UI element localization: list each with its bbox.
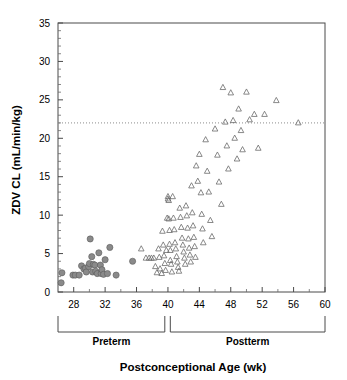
data-point-triangle: [247, 117, 253, 122]
group-bracket-label: Postterm: [226, 336, 269, 347]
x-tick-label: 44: [194, 299, 206, 310]
data-point-triangle: [189, 183, 195, 188]
data-point-circle: [76, 272, 82, 278]
data-point-triangle: [244, 89, 250, 94]
data-point-triangle: [200, 226, 206, 231]
x-tick-label: 32: [100, 299, 112, 310]
data-point-triangle: [216, 179, 222, 184]
data-point-triangle: [138, 246, 144, 251]
data-point-triangle: [224, 143, 230, 148]
series-preterm-points: [58, 236, 136, 286]
y-tick-label: 15: [39, 171, 51, 182]
data-point-triangle: [274, 97, 280, 102]
data-point-triangle: [240, 147, 246, 152]
data-point-triangle: [234, 156, 240, 161]
data-point-triangle: [162, 260, 168, 265]
data-point-circle: [59, 270, 65, 276]
x-tick-label: 36: [131, 299, 143, 310]
data-point-triangle: [226, 166, 232, 171]
data-point-triangle: [171, 215, 177, 220]
x-tick-label: 56: [288, 299, 300, 310]
x-axis-tick-labels: 283236404448525660: [68, 299, 331, 310]
data-point-circle: [104, 270, 110, 276]
data-point-triangle: [167, 241, 173, 246]
data-point-triangle: [197, 151, 203, 156]
x-axis-title: Postconceptional Age (wk): [120, 361, 267, 373]
data-point-triangle: [157, 254, 163, 259]
y-tick-label: 30: [39, 56, 51, 67]
data-point-triangle: [195, 178, 201, 183]
data-point-triangle: [262, 111, 268, 116]
data-point-triangle: [189, 210, 195, 215]
x-tick-label: 28: [68, 299, 80, 310]
chart-figure: 283236404448525660 05101520253035 Preter…: [0, 0, 347, 380]
data-point-triangle: [232, 135, 238, 140]
data-point-triangle: [206, 189, 212, 194]
data-point-triangle: [190, 223, 196, 228]
data-point-triangle: [192, 243, 198, 248]
x-tick-label: 60: [319, 299, 331, 310]
data-point-triangle: [252, 111, 258, 116]
data-point-circle: [107, 244, 113, 250]
data-point-triangle: [175, 259, 181, 264]
group-bracket-label: Preterm: [92, 336, 130, 347]
data-point-triangle: [154, 270, 160, 275]
data-point-triangle: [163, 267, 169, 272]
data-point-circle: [130, 258, 136, 264]
data-point-triangle: [193, 254, 199, 259]
data-point-triangle: [170, 193, 176, 198]
data-point-triangle: [222, 119, 228, 124]
data-point-triangle: [193, 163, 199, 168]
data-point-triangle: [200, 240, 206, 245]
data-point-triangle: [175, 264, 181, 269]
data-point-triangle: [238, 127, 244, 132]
group-bracket: [170, 316, 325, 332]
data-point-triangle: [208, 217, 214, 222]
data-point-triangle: [199, 211, 205, 216]
data-point-triangle: [296, 120, 302, 125]
y-tick-label: 35: [39, 18, 51, 29]
data-point-triangle: [179, 235, 185, 240]
data-point-triangle: [153, 263, 159, 268]
data-point-triangle: [212, 126, 218, 131]
data-point-circle: [58, 280, 64, 286]
data-point-triangle: [228, 90, 234, 95]
data-point-triangle: [220, 84, 226, 89]
group-bracket: [58, 316, 165, 332]
data-point-triangle: [186, 236, 192, 241]
y-axis-title: ZDV CL (mL/min/kg): [10, 105, 22, 215]
data-point-circle: [87, 236, 93, 242]
data-point-triangle: [173, 246, 179, 251]
group-bracket-labels: PretermPostterm: [92, 336, 269, 347]
data-point-triangle: [230, 117, 236, 122]
data-point-triangle: [167, 257, 173, 262]
data-point-triangle: [172, 240, 178, 245]
data-point-triangle: [186, 245, 192, 250]
x-tick-label: 52: [257, 299, 269, 310]
x-tick-label: 48: [225, 299, 237, 310]
scatter-plot: 283236404448525660 05101520253035 Preter…: [0, 0, 347, 380]
y-tick-label: 0: [44, 287, 50, 298]
data-point-triangle: [187, 252, 193, 257]
data-point-triangle: [209, 233, 215, 238]
data-point-triangle: [171, 227, 177, 232]
data-point-triangle: [185, 225, 191, 230]
data-point-triangle: [184, 213, 190, 218]
data-point-triangle: [180, 242, 186, 247]
data-point-triangle: [161, 253, 167, 258]
data-point-triangle: [160, 242, 166, 247]
data-point-triangle: [160, 228, 166, 233]
data-point-triangle: [198, 190, 204, 195]
data-point-triangle: [191, 234, 197, 239]
y-tick-label: 20: [39, 133, 51, 144]
data-point-circle: [102, 257, 108, 263]
y-axis-tick-labels: 05101520253035: [39, 18, 51, 298]
data-point-triangle: [236, 106, 242, 111]
data-point-triangle: [169, 269, 175, 274]
data-point-triangle: [181, 249, 187, 254]
y-tick-label: 5: [44, 248, 50, 259]
data-point-circle: [113, 272, 119, 278]
data-point-triangle: [219, 201, 225, 206]
data-point-triangle: [203, 137, 209, 142]
data-point-triangle: [177, 205, 183, 210]
